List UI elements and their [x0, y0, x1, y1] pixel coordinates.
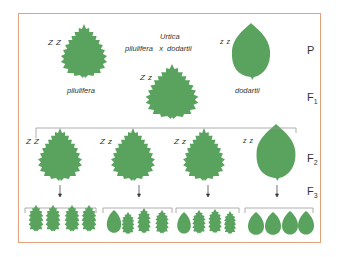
- leaf-f3-3-4: [224, 211, 236, 234]
- genotype-f2-4: z z: [243, 137, 253, 144]
- leaf-f3-2-1: [107, 210, 121, 233]
- genotype-f2-3: Z z: [174, 137, 187, 146]
- leaf-f3-4-3: [282, 211, 298, 235]
- genotype-dodartii: z z: [220, 38, 230, 45]
- leaf-f3-1-4: [82, 205, 97, 231]
- generation-label-f1: F1: [307, 91, 318, 105]
- label-dodartii: dodartii: [235, 86, 260, 95]
- leaf-f2-2: [111, 128, 155, 181]
- genotype-f2-1: Z Z: [26, 137, 40, 146]
- genotype-f2-2: Z z: [100, 137, 113, 146]
- leaf-f2-4: [257, 124, 296, 181]
- label-pilulifera: pilulifera: [67, 86, 95, 95]
- leaf-pilulifera: [61, 24, 107, 78]
- leaf-f3-3-1: [177, 212, 191, 234]
- leaf-f3-2-3: [137, 208, 150, 233]
- leaf-f3-1-3: [65, 205, 80, 231]
- leaf-f3-3-2: [192, 210, 205, 234]
- leaf-dodartii: [232, 23, 270, 80]
- genotype-f1: Z z: [140, 73, 153, 82]
- leaf-f3-2-4: [155, 210, 168, 234]
- leaf-f2-1: [38, 128, 82, 181]
- leaf-f1-hybrid: [146, 64, 199, 119]
- leaf-f3-4-1: [248, 212, 264, 235]
- f2-bracket: [36, 128, 296, 138]
- generation-label-p: P: [307, 44, 314, 56]
- leaf-f3-1-2: [46, 205, 61, 231]
- genotype-pilulifera: Z Z: [48, 38, 62, 47]
- leaf-f3-4-2: [265, 212, 281, 235]
- leaf-f3-1-1: [29, 205, 44, 231]
- title-genus: Urtica: [160, 32, 180, 41]
- f3-arrows: [59, 185, 279, 197]
- leaf-f2-3: [183, 128, 225, 181]
- generation-label-f2: F2: [307, 152, 318, 166]
- leaf-f3-2-2: [122, 212, 135, 234]
- leaf-f3-3-3: [208, 209, 221, 233]
- title-cross: pilulifera x dodartii: [125, 44, 192, 53]
- leaf-f3-4-4: [298, 211, 314, 235]
- generation-label-f3: F3: [307, 185, 318, 199]
